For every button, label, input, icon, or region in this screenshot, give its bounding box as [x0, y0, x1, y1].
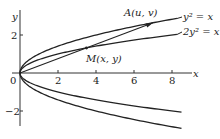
x-tick-label-2: 2: [55, 75, 61, 86]
y-axis-label: y: [11, 11, 18, 22]
label-point-A: A(u, v): [123, 7, 158, 18]
point-M: [85, 47, 88, 50]
equation-label-y2-eq-x: y² = x: [182, 11, 213, 22]
equation-label-2y2-eq-x: 2y² = x: [182, 26, 220, 37]
x-tick-label-8: 8: [169, 75, 175, 86]
y-tick-label-neg2: −2: [5, 106, 20, 117]
x-tick-label-6: 6: [131, 75, 137, 86]
x-axis-label: x: [193, 68, 199, 79]
y-tick-label-2: 2: [11, 30, 17, 41]
curve-2y2-eq-x-lower: [20, 73, 182, 112]
label-point-M: M(x, y): [85, 53, 122, 64]
parabola-diagram: 0 2 4 6 8 2 −2 x y A(u, v) M(x, y) y² = …: [0, 0, 220, 139]
leader-y2-eq-x: [177, 17, 182, 19]
x-tick-label-0: 0: [10, 75, 16, 86]
x-tick-label-4: 4: [93, 75, 99, 86]
leader-2y2-eq-x: [177, 32, 182, 35]
